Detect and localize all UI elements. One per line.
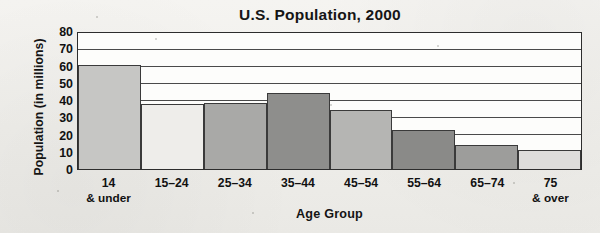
y-tick-label-50: 50 [59, 78, 73, 90]
x-tick-label-2: 25–34 [203, 176, 266, 205]
paper-speck [57, 190, 59, 192]
x-axis-tick-labels: 14& under15–2425–3435–4445–5455–6465–747… [77, 176, 582, 205]
bar-4[interactable] [330, 110, 393, 170]
x-tick-label-4: 45–54 [330, 176, 393, 205]
y-tick-label-0: 0 [66, 164, 73, 176]
bar-5[interactable] [392, 130, 455, 169]
y-tick-label-20: 20 [59, 129, 73, 141]
chart-title: U.S. Population, 2000 [0, 6, 600, 24]
bar-0[interactable] [78, 65, 141, 169]
bar-3[interactable] [267, 93, 330, 170]
y-tick-label-60: 60 [59, 60, 73, 72]
bar-6[interactable] [455, 145, 518, 169]
x-tick-label-6: 65–74 [456, 176, 519, 205]
bar-1[interactable] [141, 104, 204, 169]
y-tick-label-80: 80 [59, 26, 73, 38]
y-axis-tick-labels: 80706050403020100 [46, 32, 73, 170]
chart-figure: U.S. Population, 2000 Population (in mil… [0, 0, 600, 233]
x-tick-label-3: 35–44 [266, 176, 329, 205]
bar-7[interactable] [518, 150, 581, 169]
x-tick-label-0: 14& under [77, 176, 140, 205]
bar-series [78, 33, 581, 169]
y-axis-title: Population (in millions) [32, 27, 46, 187]
y-tick-label-70: 70 [59, 43, 73, 55]
x-tick-label-1: 15–24 [140, 176, 203, 205]
plot-area [77, 32, 582, 170]
bar-2[interactable] [204, 103, 267, 169]
y-tick-label-30: 30 [59, 112, 73, 124]
x-tick-label-5: 55–64 [393, 176, 456, 205]
x-axis-title: Age Group [77, 207, 582, 221]
x-tick-label-7: 75& over [519, 176, 582, 205]
y-tick-label-10: 10 [59, 147, 73, 159]
y-tick-label-40: 40 [59, 95, 73, 107]
